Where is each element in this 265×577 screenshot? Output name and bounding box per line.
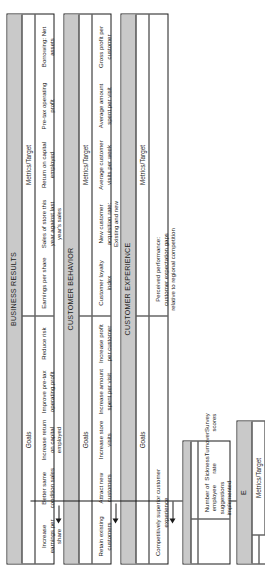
- column-body-goals: Competitively superior customer experien…: [149, 316, 167, 563]
- metric-item: Turnover: [202, 432, 209, 456]
- box-columns: Goals Increase earnings per share Better…: [22, 14, 53, 563]
- column-body-metrics: Customer loyalty index New customer acqu…: [92, 14, 110, 315]
- goal-item: Reduce risk: [39, 319, 46, 367]
- column-header-metrics: [191, 441, 198, 518]
- metric-item: Number of employee suggestions implement…: [202, 480, 231, 515]
- metric-item: Earnings per share: [39, 253, 46, 312]
- connector-experience-to-behavior: [111, 503, 119, 523]
- goal-item: Competitively superior customer experien…: [153, 464, 168, 560]
- goal-item: Increase store visits: [96, 415, 111, 463]
- column-goals: Goals Increase earnings per share Better…: [22, 316, 53, 563]
- metric-item: Return on capital employed: [39, 135, 54, 194]
- goal-item: Retain existing customers: [96, 512, 111, 560]
- connector-behavior-to-results: [54, 505, 62, 523]
- column-header-goals: [252, 535, 259, 563]
- column-goals: Goals Competitively superior customer ex…: [136, 316, 167, 563]
- box-people-partial: Number of employee suggestions implement…: [182, 440, 230, 564]
- box-columns: Goals Retain existing customers Attract …: [79, 14, 110, 563]
- metric-item: Sales of store this year against last ye…: [39, 194, 61, 253]
- column-body-metrics: Perceived performance: customer expectat…: [149, 14, 167, 315]
- arrow-shaft: [172, 501, 173, 519]
- column-header-goals: Goals: [22, 316, 36, 563]
- goal-item: Attract new customers: [96, 464, 111, 512]
- column-goals: Goals Retain existing customers Attract …: [79, 316, 110, 563]
- column-goals: [252, 535, 265, 563]
- box-columns: Metrics/Target Relative value line posit…: [252, 421, 265, 563]
- diagram-canvas: BUSINESS RESULTS Goals Increase earnings…: [0, 0, 265, 577]
- metric-item: Sickness rate: [202, 456, 217, 480]
- metric-item: Survey scores: [202, 413, 217, 432]
- goal-item: Better same condition sales: [39, 464, 54, 512]
- goal-item: Improve pre-tax operating profit: [39, 367, 54, 415]
- arrow-shaft: [58, 505, 59, 519]
- box-customer-behavior: CUSTOMER BEHAVIOR Goals Retain existing …: [63, 13, 111, 564]
- metric-item: Gross profit per customer: [96, 17, 111, 76]
- column-body-metrics: Earnings per share Sales of store this y…: [35, 14, 53, 315]
- arrow-shaft: [115, 503, 116, 519]
- column-header-goals: [191, 519, 198, 563]
- column-header-metrics: Metrics/Target: [136, 14, 150, 315]
- column-metrics: Number of employee suggestions implement…: [191, 441, 229, 519]
- box-title-customer-experience: CUSTOMER EXPERIENCE: [121, 14, 136, 563]
- metric-item: Borrowing: Net assets: [39, 17, 54, 76]
- column-body-goals: [259, 535, 265, 563]
- box-customer-experience: CUSTOMER EXPERIENCE Goals Competitively …: [120, 13, 168, 564]
- column-body-goals: [198, 519, 229, 563]
- column-body-goals: Retain existing customers Attract new cu…: [92, 316, 110, 563]
- column-metrics: Metrics/Target Customer loyalty index Ne…: [79, 14, 110, 316]
- column-metrics: Metrics/Target Perceived performance: cu…: [136, 14, 167, 316]
- column-header-metrics: Metrics/Target: [79, 14, 93, 315]
- box-title-offer-partial: E: [237, 421, 252, 563]
- goal-item: Increase return on capital employed: [39, 415, 61, 463]
- connector-cluster-to-experience: [168, 501, 176, 523]
- box-title-people-partial: [183, 441, 191, 563]
- column-body-metrics: Number of employee suggestions implement…: [198, 441, 229, 518]
- column-header-goals: Goals: [136, 316, 150, 563]
- column-goals: [191, 519, 229, 563]
- metric-item: Pre-tax operating profit: [39, 76, 54, 135]
- metric-item: Average amount spent per visit: [96, 76, 111, 135]
- box-columns: Number of employee suggestions implement…: [191, 441, 229, 563]
- column-body-goals: Increase earnings per share Better same …: [35, 316, 53, 563]
- box-title-business-results: BUSINESS RESULTS: [7, 14, 22, 563]
- column-header-metrics: Metrics/Target: [22, 14, 36, 315]
- box-columns: Goals Competitively superior customer ex…: [136, 14, 167, 563]
- column-metrics: Metrics/Target Relative value line posit…: [252, 421, 265, 535]
- metric-item: Customer loyalty index: [96, 253, 111, 312]
- column-header-goals: Goals: [79, 316, 93, 563]
- goal-item: Increase amount spent per visit: [96, 367, 111, 415]
- box-title-customer-behavior: CUSTOMER BEHAVIOR: [64, 14, 79, 563]
- metric-item: Perceived performance: customer expectat…: [153, 226, 175, 312]
- metric-item: Average customer visits per week: [96, 135, 111, 194]
- box-offer-partial: E Metrics/Target Relative value line pos…: [236, 420, 265, 564]
- column-metrics: Metrics/Target Earnings per share Sales …: [22, 14, 53, 316]
- goal-item: Increase profit per customer: [96, 319, 111, 367]
- box-business-results: BUSINESS RESULTS Goals Increase earnings…: [6, 13, 54, 564]
- column-header-metrics: Metrics/Target: [252, 421, 265, 534]
